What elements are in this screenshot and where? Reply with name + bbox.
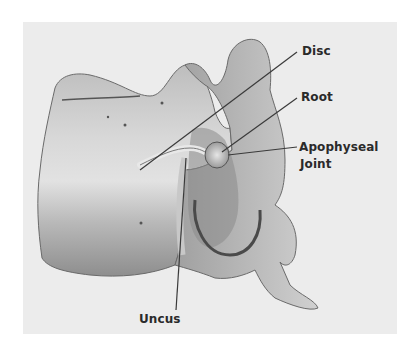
label-uncus: Uncus: [139, 312, 181, 326]
vertebra-illustration: [0, 0, 418, 350]
label-apophyseal: Apophyseal: [299, 140, 379, 154]
label-disc: Disc: [302, 44, 331, 58]
apophyseal-joint: [205, 142, 229, 168]
label-root: Root: [301, 90, 333, 104]
label-joint: Joint: [300, 157, 332, 171]
